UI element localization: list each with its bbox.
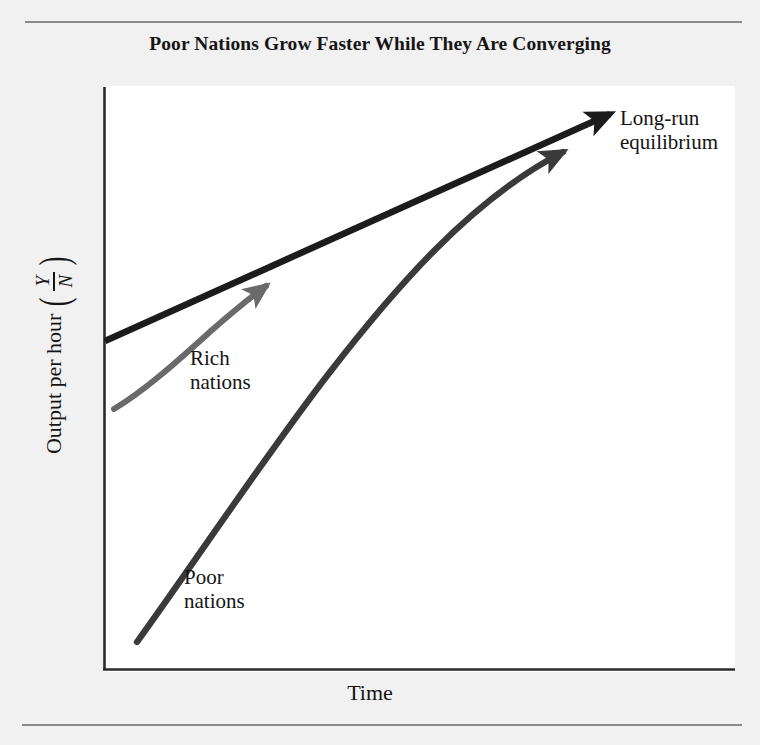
poor-nations-label-line2: nations bbox=[184, 589, 245, 613]
figure-container: Poor Nations Grow Faster While They Are … bbox=[0, 0, 760, 745]
poor-nations-label: Poor nations bbox=[184, 565, 245, 614]
long-run-equilibrium-line bbox=[105, 114, 610, 341]
rich-nations-label-line2: nations bbox=[190, 370, 251, 394]
rich-nations-label-line1: Rich bbox=[190, 346, 251, 370]
long-run-label-line2: equilibrium bbox=[620, 130, 718, 154]
long-run-equilibrium-label: Long-run equilibrium bbox=[620, 106, 718, 155]
rich-nations-label: Rich nations bbox=[190, 346, 251, 395]
x-axis-label: Time bbox=[0, 680, 740, 706]
poor-nations-label-line1: Poor bbox=[184, 565, 245, 589]
long-run-label-line1: Long-run bbox=[620, 106, 718, 130]
